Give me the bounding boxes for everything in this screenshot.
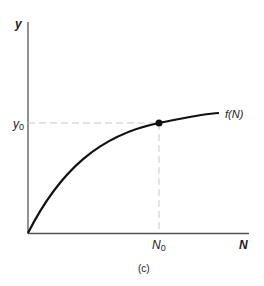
f-of-n-curve: [28, 113, 219, 233]
function-diagram: y y0 f(N) N0 N (c): [0, 0, 264, 286]
equilibrium-point: [156, 120, 163, 127]
x-axis-label: N: [239, 238, 248, 252]
figure-caption: (c): [138, 263, 150, 274]
y-axis-label: y: [14, 17, 23, 31]
n0-label: N0: [152, 238, 166, 253]
y0-label: y0: [12, 117, 24, 132]
curve-label: f(N): [225, 108, 244, 120]
